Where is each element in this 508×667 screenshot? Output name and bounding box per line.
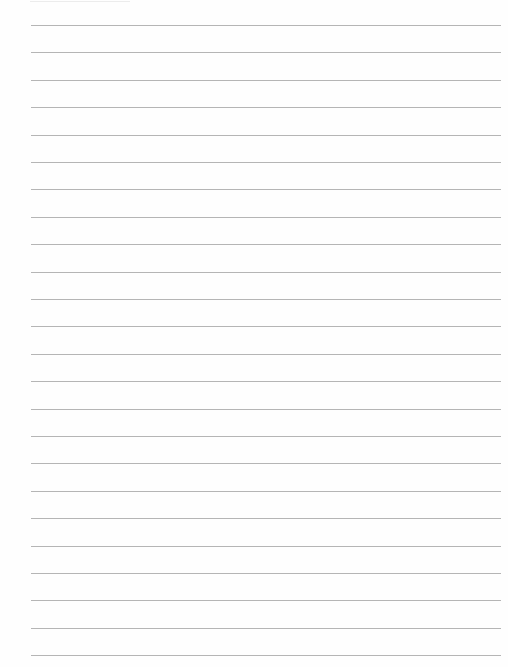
ruled-line [31,381,501,382]
ruled-line [31,491,501,492]
ruled-line [31,107,501,108]
ruled-line [31,244,501,245]
ruled-line [31,655,501,656]
ruled-line [31,299,501,300]
ruled-line [31,436,501,437]
ruled-line [31,546,501,547]
ruled-line [31,600,501,601]
ruled-line [31,272,501,273]
ruled-line [31,217,501,218]
paper-edge-mark [30,1,130,2]
ruled-line [31,354,501,355]
ruled-line [31,409,501,410]
ruled-line [31,162,501,163]
ruled-line [31,80,501,81]
ruled-line [31,573,501,574]
ruled-line [31,135,501,136]
ruled-line [31,25,501,26]
ruled-line [31,463,501,464]
ruled-line [31,326,501,327]
ruled-line [31,628,501,629]
ruled-line [31,52,501,53]
ruled-paper-page [0,0,508,667]
ruled-line [31,189,501,190]
ruled-line [31,518,501,519]
